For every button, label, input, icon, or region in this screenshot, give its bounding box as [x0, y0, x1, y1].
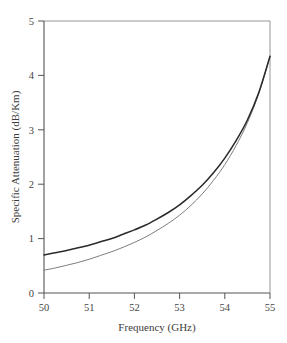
x-axis-title: Frequency (GHz)	[118, 321, 196, 334]
y-tick-label-2: 2	[29, 179, 34, 190]
x-tick-label-55: 55	[265, 302, 276, 313]
y-tick-marks	[38, 21, 44, 293]
x-tick-label-50: 50	[39, 302, 50, 313]
y-tick-label-0: 0	[29, 288, 34, 299]
y-axis-title: Specific Attenuation (dB/Km)	[9, 90, 22, 223]
x-tick-marks	[44, 293, 270, 299]
line-chart: 0 1 2 3 4 5 50 51 52 53 54 55 Frequency …	[0, 0, 287, 343]
x-tick-label-51: 51	[84, 302, 95, 313]
y-tick-label-3: 3	[29, 125, 34, 136]
y-tick-label-1: 1	[29, 233, 34, 244]
series-line-lower-curve	[44, 56, 270, 270]
y-tick-label-4: 4	[29, 70, 35, 81]
y-tick-label-5: 5	[29, 16, 34, 27]
chart-figure: 0 1 2 3 4 5 50 51 52 53 54 55 Frequency …	[0, 0, 287, 343]
plot-frame	[44, 21, 270, 293]
x-tick-label-52: 52	[129, 302, 140, 313]
x-tick-label-54: 54	[220, 302, 231, 313]
x-tick-label-53: 53	[174, 302, 185, 313]
series-line-upper-curve	[44, 56, 270, 255]
